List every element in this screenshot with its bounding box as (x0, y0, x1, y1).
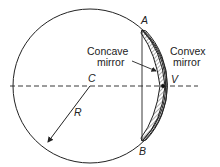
label-b: B (139, 145, 146, 157)
mirror-diagram: A B C V R Concave mirror Convex mirror (0, 0, 220, 167)
radius-arrow (48, 86, 90, 142)
concave-pointer-arrow (132, 61, 156, 71)
label-c: C (88, 72, 96, 84)
concave-label-line2: mirror (97, 56, 125, 68)
label-v: V (171, 73, 179, 85)
vertex-dot (161, 84, 165, 88)
label-r: R (74, 106, 82, 118)
convex-label-line2: mirror (173, 56, 201, 68)
label-a: A (140, 14, 148, 26)
